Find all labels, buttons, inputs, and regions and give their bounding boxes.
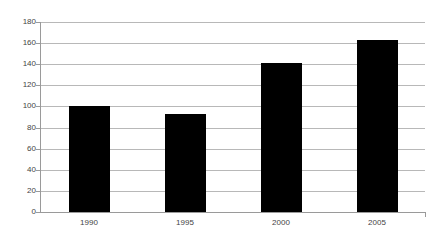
- y-axis-tick-mark: [36, 85, 41, 86]
- bar: [69, 106, 110, 212]
- bar: [165, 114, 206, 212]
- y-axis-tick-label: 100: [23, 102, 36, 110]
- bar-chart: 020406080100120140160180 199019952000200…: [0, 0, 441, 240]
- y-axis-tick-label: 40: [27, 166, 36, 174]
- x-axis-tick-label: 2000: [272, 219, 290, 227]
- y-axis-tick-mark: [36, 191, 41, 192]
- y-axis-tick-mark: [36, 106, 41, 107]
- y-axis-tick-label: 80: [27, 124, 36, 132]
- gridline: [41, 22, 425, 23]
- y-axis-tick-labels: 020406080100120140160180: [0, 0, 36, 240]
- y-axis-line: [40, 22, 41, 213]
- x-axis-tick-label: 2005: [368, 219, 386, 227]
- x-axis-end-tick: [425, 212, 426, 217]
- y-axis-tick-label: 120: [23, 81, 36, 89]
- y-axis-tick-mark: [36, 170, 41, 171]
- y-axis-tick-label: 20: [27, 187, 36, 195]
- bar: [261, 63, 302, 212]
- y-axis-tick-mark: [36, 22, 41, 23]
- x-axis-line: [41, 212, 426, 213]
- y-axis-tick-mark: [36, 43, 41, 44]
- y-axis-tick-label: 180: [23, 18, 36, 26]
- x-axis-tick-label: 1990: [80, 219, 98, 227]
- bar: [357, 40, 398, 212]
- y-axis-tick-label: 60: [27, 145, 36, 153]
- y-axis-tick-mark: [36, 64, 41, 65]
- plot-area: [41, 22, 425, 212]
- y-axis-tick-mark: [36, 128, 41, 129]
- y-axis-tick-label: 160: [23, 39, 36, 47]
- y-axis-tick-mark: [36, 212, 41, 213]
- x-axis-tick-label: 1995: [176, 219, 194, 227]
- y-axis-tick-label: 140: [23, 60, 36, 68]
- y-axis-tick-mark: [36, 149, 41, 150]
